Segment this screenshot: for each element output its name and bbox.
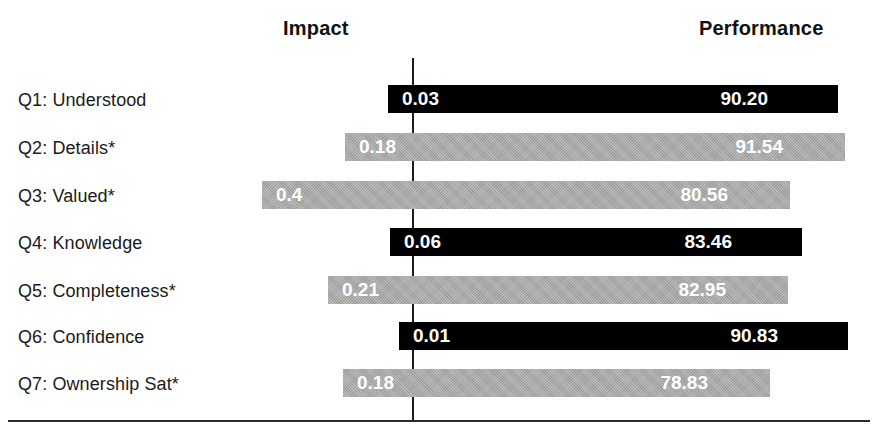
chart-row: Q6: Confidence0.0190.83 xyxy=(0,322,879,352)
impact-value: 0.18 xyxy=(357,372,394,394)
row-label: Q2: Details* xyxy=(18,138,115,159)
row-label: Q6: Confidence xyxy=(18,327,144,348)
column-header-performance: Performance xyxy=(699,17,823,40)
performance-value: 80.56 xyxy=(680,184,728,206)
row-bar: 0.480.56 xyxy=(262,181,790,209)
row-label: Q5: Completeness* xyxy=(18,281,176,302)
performance-value: 90.20 xyxy=(720,88,768,110)
impact-value: 0.03 xyxy=(402,88,439,110)
row-bar: 0.0190.83 xyxy=(399,322,848,350)
performance-value: 90.83 xyxy=(730,325,778,347)
column-header-impact: Impact xyxy=(283,17,349,40)
impact-value: 0.06 xyxy=(404,231,441,253)
chart-row: Q1: Understood0.0390.20 xyxy=(0,85,879,115)
impact-value: 0.21 xyxy=(342,279,379,301)
chart-row: Q4: Knowledge0.0683.46 xyxy=(0,228,879,258)
impact-value: 0.18 xyxy=(359,136,396,158)
row-bar: 0.1891.54 xyxy=(345,133,845,161)
impact-value: 0.01 xyxy=(413,325,450,347)
chart-baseline-rule xyxy=(8,420,870,422)
performance-value: 78.83 xyxy=(660,372,708,394)
cropped-footnote-artifact xyxy=(10,430,310,439)
row-label: Q7: Ownership Sat* xyxy=(18,374,179,395)
impact-value: 0.4 xyxy=(276,184,302,206)
row-bar: 0.0390.20 xyxy=(388,85,838,113)
chart-row: Q7: Ownership Sat*0.1878.83 xyxy=(0,369,879,399)
chart-row: Q2: Details*0.1891.54 xyxy=(0,133,879,163)
row-label: Q3: Valued* xyxy=(18,186,115,207)
performance-value: 91.54 xyxy=(735,136,783,158)
chart-row: Q5: Completeness*0.2182.95 xyxy=(0,276,879,306)
performance-value: 83.46 xyxy=(684,231,732,253)
performance-value: 82.95 xyxy=(678,279,726,301)
row-bar: 0.0683.46 xyxy=(390,228,802,256)
chart-row: Q3: Valued*0.480.56 xyxy=(0,181,879,211)
row-bar: 0.2182.95 xyxy=(328,276,788,304)
row-bar: 0.1878.83 xyxy=(343,369,770,397)
row-label: Q4: Knowledge xyxy=(18,233,142,254)
row-label: Q1: Understood xyxy=(18,90,146,111)
impact-performance-chart: Impact Performance Q1: Understood0.0390.… xyxy=(0,0,879,439)
